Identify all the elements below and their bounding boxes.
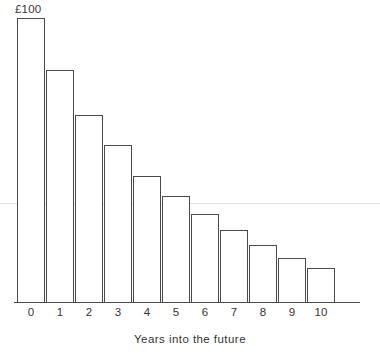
- x-tick-label: 0: [17, 306, 45, 318]
- bar: [46, 70, 74, 302]
- x-tick-label: 5: [162, 306, 190, 318]
- x-tick-label: 7: [220, 306, 248, 318]
- x-axis-line: [14, 302, 360, 303]
- x-tick-label: 6: [191, 306, 219, 318]
- bar: [162, 196, 190, 302]
- plot-area: [0, 0, 380, 302]
- bar-chart: Years into the future £100012345678910: [0, 0, 380, 353]
- bar: [104, 145, 132, 302]
- x-tick-label: 2: [75, 306, 103, 318]
- bar: [278, 258, 306, 302]
- bar: [133, 176, 161, 302]
- x-tick-label: 9: [278, 306, 306, 318]
- bar: [307, 268, 335, 302]
- bar-value-label: £100: [15, 3, 41, 15]
- x-tick-label: 8: [249, 306, 277, 318]
- x-tick-label: 1: [46, 306, 74, 318]
- bar: [220, 230, 248, 302]
- x-tick-label: 3: [104, 306, 132, 318]
- x-tick-label: 4: [133, 306, 161, 318]
- bar: [17, 18, 45, 302]
- x-axis-title: Years into the future: [0, 333, 380, 345]
- x-tick-label: 10: [307, 306, 335, 318]
- bar: [191, 214, 219, 302]
- bar: [75, 115, 103, 302]
- bar: [249, 245, 277, 302]
